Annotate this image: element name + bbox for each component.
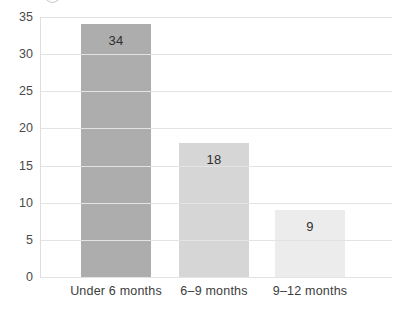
y-tick-label: 5 <box>3 234 33 246</box>
gridline-15 <box>40 166 392 167</box>
gridline-10 <box>40 203 392 204</box>
y-tick-label: 20 <box>3 122 33 134</box>
y-tick-label: 35 <box>3 11 33 23</box>
y-tick-label: 25 <box>3 85 33 97</box>
gridline-5 <box>40 240 392 241</box>
bar-3: 9 <box>275 210 345 277</box>
gridline-35 <box>40 17 392 18</box>
gridline-0 <box>40 277 392 278</box>
y-axis-line <box>40 17 41 277</box>
x-category-label: Under 6 months <box>70 284 162 298</box>
gridline-25 <box>40 91 392 92</box>
x-category-label: 9–12 months <box>273 284 347 298</box>
bar-value-label: 9 <box>275 219 345 234</box>
bar-2: 18 <box>179 143 249 277</box>
bar-value-label: 34 <box>81 33 151 48</box>
cropped-circle-decoration <box>44 0 61 3</box>
bar-chart: 34189 05101520253035Under 6 months6–9 mo… <box>0 0 404 309</box>
y-tick-label: 15 <box>3 160 33 172</box>
y-tick-label: 10 <box>3 197 33 209</box>
gridline-20 <box>40 128 392 129</box>
y-tick-label: 0 <box>3 271 33 283</box>
plot-area: 34189 <box>40 17 392 277</box>
y-tick-label: 30 <box>3 48 33 60</box>
x-category-label: 6–9 months <box>180 284 247 298</box>
gridline-30 <box>40 54 392 55</box>
